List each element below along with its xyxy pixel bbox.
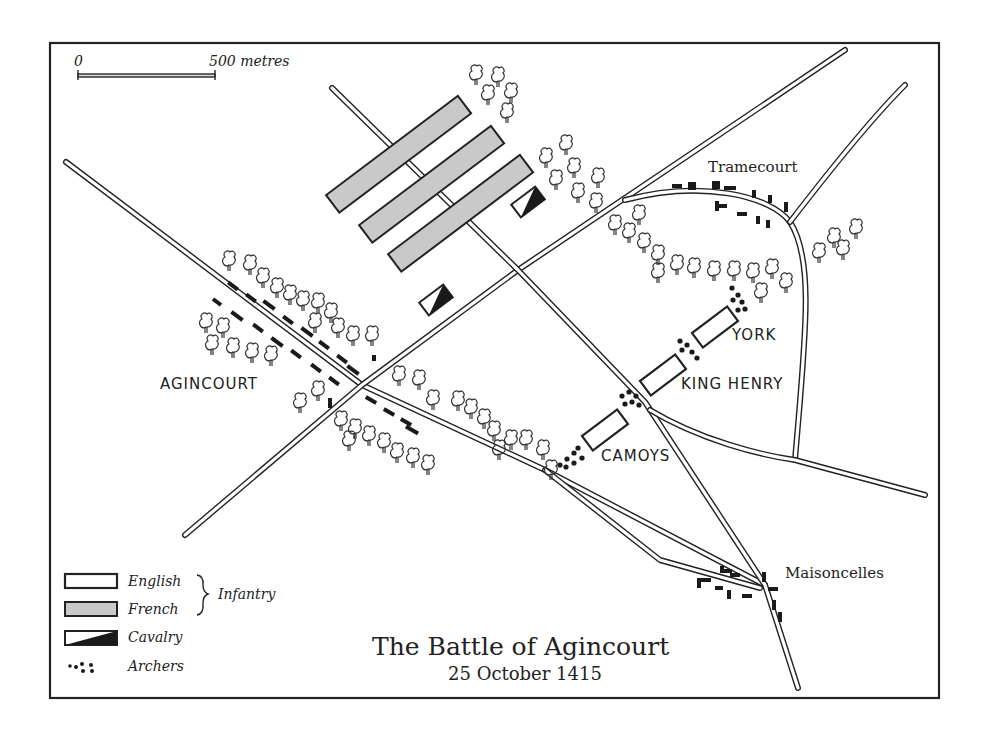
division-label-king-henry: KING HENRY	[681, 375, 783, 393]
legend-cavalry-label: Cavalry	[128, 629, 183, 645]
battle-map: 0 500 metres	[0, 0, 988, 735]
scale-start-label: 0	[74, 53, 83, 69]
legend-french-label: French	[127, 601, 179, 617]
legend-cavalry-swatch	[65, 631, 117, 645]
scale-end-label: 500 metres	[209, 53, 290, 69]
place-label-maisoncelles: Maisoncelles	[785, 564, 884, 582]
legend-archers-label: Archers	[126, 658, 184, 674]
division-label-camoys: CAMOYS	[601, 447, 670, 465]
legend-french-swatch	[65, 602, 117, 616]
legend-english-swatch	[65, 574, 117, 588]
place-label-tramecourt: Tramecourt	[708, 158, 798, 176]
place-label-agincourt: AGINCOURT	[160, 375, 258, 393]
legend-infantry-label: Infantry	[217, 586, 276, 602]
division-label-york: YORK	[731, 326, 777, 344]
map-title: The Battle of Agincourt	[372, 632, 669, 661]
map-subtitle: 25 October 1415	[448, 663, 602, 684]
legend-english-label: English	[127, 573, 181, 589]
